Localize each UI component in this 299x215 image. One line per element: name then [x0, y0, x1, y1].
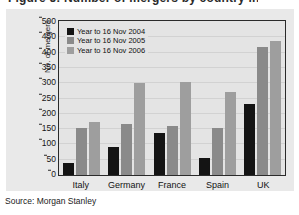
bar: [244, 104, 255, 175]
y-axis-tick-label: 250: [42, 93, 56, 102]
legend-swatch: [67, 47, 74, 54]
chart-figure: Figure 5: Number of mergers by country i…: [0, 0, 299, 215]
bar: [199, 158, 210, 175]
y-axis-tick-label: 150: [42, 124, 56, 133]
y-axis-tick-mark: [39, 47, 42, 48]
y-axis-tick-label: 100: [42, 139, 56, 148]
y-axis-ticks: 050100150200250300350400450500: [29, 21, 56, 175]
y-axis-tick-mark: [39, 93, 42, 94]
legend-label: Year to 16 Nov 2004: [77, 28, 145, 36]
legend-label: Year to 16 Nov 2005: [77, 37, 145, 45]
legend-item: Year to 16 Nov 2006: [67, 46, 145, 55]
legend-item: Year to 16 Nov 2004: [67, 27, 145, 36]
x-axis-labels: ItalyGermanyFranceSpainUK: [58, 178, 286, 192]
bar: [154, 133, 165, 175]
y-axis-tick-mark: [39, 32, 42, 33]
y-axis-tick-mark: [44, 154, 47, 155]
y-axis-tick-label: 350: [42, 63, 56, 72]
chart-legend: Year to 16 Nov 2004Year to 16 Nov 2005Ye…: [65, 26, 148, 57]
y-axis-tick-mark: [39, 63, 42, 64]
legend-swatch: [67, 37, 74, 44]
x-axis-label: Germany: [104, 178, 150, 192]
legend-item: Year to 16 Nov 2005: [67, 37, 145, 46]
bar: [167, 126, 178, 175]
y-axis-tick-label: 500: [42, 17, 56, 26]
y-axis-tick-label: 200: [42, 109, 56, 118]
y-axis-tick-label: 0: [51, 170, 56, 179]
figure-title: Figure 5: Number of mergers by country i…: [8, 0, 258, 5]
bar: [180, 82, 191, 175]
bar-group: [149, 21, 194, 175]
x-axis-label: France: [149, 178, 195, 192]
y-axis-tick-mark: [48, 170, 51, 171]
y-axis-tick-label: 400: [42, 47, 56, 56]
y-axis-tick-mark: [39, 17, 42, 18]
bar-group: [240, 21, 285, 175]
plot-area: No. of mergers 0501001502002503003504004…: [58, 20, 286, 176]
chart-panel: No. of mergers 0501001502002503003504004…: [6, 9, 294, 191]
x-axis-label: Italy: [58, 178, 104, 192]
bar: [63, 163, 74, 175]
y-axis-tick-label: 50: [47, 154, 56, 163]
y-axis-tick-label: 300: [42, 78, 56, 87]
bar: [108, 147, 119, 175]
bar: [225, 92, 236, 175]
legend-label: Year to 16 Nov 2006: [77, 47, 145, 55]
bar: [121, 124, 132, 175]
y-axis-tick-mark: [39, 78, 42, 79]
bar: [89, 122, 100, 175]
y-axis-tick-mark: [39, 139, 42, 140]
x-axis-label: Spain: [195, 178, 241, 192]
bar: [257, 47, 268, 175]
y-axis-tick-mark: [39, 124, 42, 125]
bar: [212, 128, 223, 175]
y-axis-tick-mark: [39, 109, 42, 110]
y-axis-tick-label: 450: [42, 32, 56, 41]
bar: [76, 128, 87, 175]
legend-swatch: [67, 28, 74, 35]
source-caption: Source: Morgan Stanley: [5, 196, 96, 206]
bar: [270, 41, 281, 175]
bar-group: [195, 21, 240, 175]
x-axis-label: UK: [240, 178, 286, 192]
bar: [134, 83, 145, 175]
